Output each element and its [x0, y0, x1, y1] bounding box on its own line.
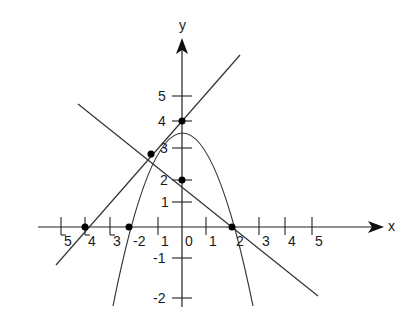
parabola-curve — [113, 133, 253, 306]
point-2-0 — [229, 224, 236, 231]
graph-canvas: x y 5 4 3 -2 1 0 1 2 3 4 — [0, 0, 412, 329]
x-tick-labels: 5 4 3 -2 1 0 1 2 3 4 5 — [64, 233, 323, 249]
y-tick-label: -1 — [153, 250, 166, 266]
point-0-2 — [179, 177, 186, 184]
point-minus2-0 — [126, 224, 133, 231]
x-tick-label: 1 — [209, 233, 217, 249]
x-tick-label: 3 — [113, 233, 121, 249]
x-tick-label: 4 — [88, 233, 96, 249]
x-tick-label: -2 — [133, 233, 146, 249]
x-tick-label: 5 — [315, 233, 323, 249]
point-0-4 — [179, 118, 186, 125]
line-y-equals-minus-x-plus-2 — [78, 104, 318, 296]
x-axis-label: x — [388, 218, 395, 234]
point-minus1-3 — [148, 151, 155, 158]
x-tick-label: 0 — [185, 233, 193, 249]
x-tick-label: 5 — [64, 233, 72, 249]
point-minus4-0 — [82, 224, 89, 231]
y-tick-label: 4 — [158, 113, 166, 129]
y-axis-label: y — [179, 17, 186, 33]
y-tick-labels: 5 4 3 2 1 -1 -2 — [153, 88, 169, 306]
y-tick-label: 1 — [161, 194, 169, 210]
marked-points — [82, 118, 236, 231]
y-tick-label: -2 — [153, 290, 166, 306]
x-tick-label: 1 — [161, 233, 169, 249]
x-tick-label: 3 — [262, 233, 270, 249]
x-tick-label: 4 — [288, 233, 296, 249]
y-tick-label: 5 — [158, 88, 166, 104]
